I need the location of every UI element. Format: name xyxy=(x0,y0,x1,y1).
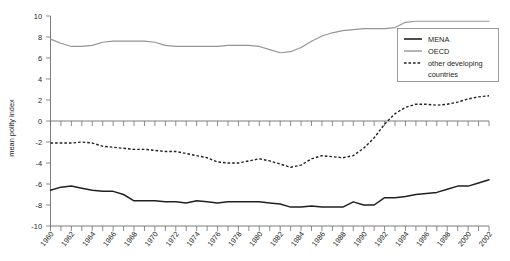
y-axis-title-label: mean polity index xyxy=(7,99,16,157)
x-tick-label: 1972 xyxy=(164,230,181,249)
x-tick-label: 2002 xyxy=(477,230,494,249)
x-tick-label: 1978 xyxy=(226,230,243,249)
y-tick-label: -8 xyxy=(35,201,42,210)
y-axis-title: mean polity index xyxy=(7,99,16,157)
x-tick-label: 1988 xyxy=(331,230,348,249)
x-tick-label: 1968 xyxy=(122,230,139,249)
x-tick-label: 1976 xyxy=(205,230,222,249)
legend-label-other-developing: other developing xyxy=(428,59,483,68)
legend-label-mena: MENA xyxy=(428,35,449,44)
y-tick-label: -10 xyxy=(31,222,42,231)
x-tick-label: 1996 xyxy=(414,230,431,249)
y-tick-label: 8 xyxy=(38,33,42,42)
x-tick-label: 1998 xyxy=(435,230,452,249)
chart-container: mean polity index 1086420-2-4-6-8-10 196… xyxy=(0,0,510,261)
x-tick-label: 1962 xyxy=(59,230,76,249)
x-tick-label: 1992 xyxy=(372,230,389,249)
x-tick-label: 1994 xyxy=(393,230,410,249)
y-tick-label: 4 xyxy=(38,75,42,84)
x-tick-label: 1964 xyxy=(80,230,97,249)
x-axis-tick-labels: 1960196219641966196819701972197419761978… xyxy=(38,230,494,249)
legend-label-countries: countries xyxy=(428,70,458,79)
x-tick-label: 1990 xyxy=(352,230,369,249)
polity-index-line-chart: mean polity index 1086420-2-4-6-8-10 196… xyxy=(0,0,510,261)
x-tick-label: 1970 xyxy=(143,230,160,249)
x-tick-label: 1982 xyxy=(268,230,285,249)
y-tick-label: 2 xyxy=(38,96,42,105)
y-tick-label: 6 xyxy=(38,54,42,63)
y-tick-label: 10 xyxy=(34,12,42,21)
zero-line-ticks xyxy=(51,121,490,126)
y-tick-label: -4 xyxy=(35,159,42,168)
x-tick-label: 1974 xyxy=(185,230,202,249)
chart-legend: MENA OECD other developing countries xyxy=(398,29,499,82)
series-line-mena xyxy=(51,180,490,207)
y-tick-label: -6 xyxy=(35,180,42,189)
y-tick-label: 0 xyxy=(38,117,42,126)
legend-label-oecd: OECD xyxy=(428,47,449,56)
x-tick-label: 1980 xyxy=(247,230,264,249)
x-tick-label: 2000 xyxy=(456,230,473,249)
x-tick-label: 1986 xyxy=(310,230,327,249)
series-line-other-developing-countries xyxy=(51,96,490,167)
x-tick-label: 1966 xyxy=(101,230,118,249)
x-tick-label: 1984 xyxy=(289,230,306,249)
y-tick-label: -2 xyxy=(35,138,42,147)
x-tick-label: 1960 xyxy=(38,230,55,249)
y-axis-ticks: 1086420-2-4-6-8-10 xyxy=(31,12,50,231)
